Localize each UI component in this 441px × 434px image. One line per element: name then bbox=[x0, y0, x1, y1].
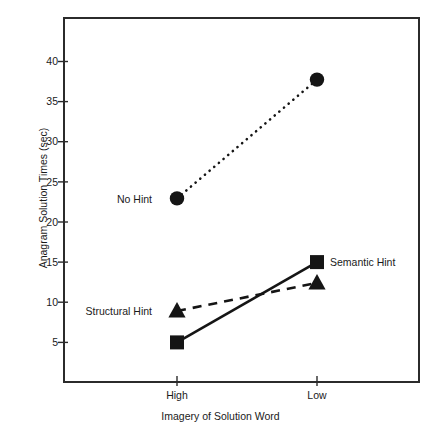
y-tick-label-5: 5 bbox=[24, 337, 58, 348]
x-tick-label-low: Low bbox=[282, 390, 352, 401]
series-label-structural-hint: Structural Hint bbox=[32, 305, 152, 317]
x-tick-label-high: High bbox=[142, 390, 212, 401]
x-axis-title: Imagery of Solution Word bbox=[0, 410, 441, 422]
series-label-no-hint: No Hint bbox=[42, 193, 152, 205]
y-tick-label-40: 40 bbox=[24, 56, 58, 67]
anagram-solution-times-chart: 40 35 30 25 20 15 10 5 High Low Imagery … bbox=[0, 0, 441, 434]
series-label-semantic-hint: Semantic Hint bbox=[330, 256, 395, 268]
